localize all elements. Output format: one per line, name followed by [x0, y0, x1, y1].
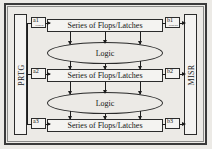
arrow-flop2-to-logic2-center — [105, 82, 106, 93]
flop-row-3[interactable]: Series of Flops/Latches — [47, 119, 163, 132]
link-flop3-to-b3 — [162, 124, 166, 125]
logic-block-2-label: Logic — [96, 99, 115, 108]
scan-out-tap-b2-id: b2 — [167, 68, 173, 75]
logic-block-1[interactable]: Logic — [47, 42, 163, 64]
flop-row-1[interactable]: Series of Flops/Latches — [47, 19, 163, 32]
scan-out-tap-b2[interactable]: b2 — [165, 68, 180, 79]
flop-row-3-label: Series of Flops/Latches — [67, 121, 142, 130]
arrow-logic2-to-flop3-center — [105, 114, 106, 119]
link-flop1-to-b1 — [162, 23, 166, 24]
bist-diagram-canvas: PRTG MISR Series of Flops/Latches Series… — [0, 0, 212, 149]
link-a1-to-flop1 — [46, 23, 50, 24]
misr-label: MISR — [186, 64, 195, 85]
arrow-logic2-to-flop3-left — [70, 111, 71, 119]
prtg-output-stub-top — [27, 23, 28, 24]
arrow-logic1-to-flop2-right — [140, 61, 141, 69]
flop-row-2[interactable]: Series of Flops/Latches — [47, 69, 163, 82]
arrow-logic1-to-flop2-left — [70, 61, 71, 69]
prtg-register[interactable]: PRTG — [14, 14, 27, 135]
scan-in-tap-a1[interactable]: a1 scan in — [31, 17, 46, 28]
link-flop2-to-b2 — [162, 74, 166, 75]
scan-in-tap-a2-id: a2 — [33, 68, 39, 75]
logic-block-2[interactable]: Logic — [47, 92, 163, 114]
scan-out-tap-b3[interactable]: b3 — [165, 118, 180, 129]
arrow-logic2-to-flop3-right — [140, 111, 141, 119]
arrow-flop1-to-logic1-right — [140, 32, 141, 44]
link-a3-to-flop3 — [46, 124, 50, 125]
flop-row-1-label: Series of Flops/Latches — [67, 21, 142, 30]
scan-out-tap-b1[interactable]: b1 scan out — [165, 17, 180, 28]
link-b1-to-misr — [180, 23, 185, 24]
scan-in-tap-a3[interactable]: a3 — [31, 118, 46, 129]
arrow-flop2-to-logic2-left — [70, 82, 71, 94]
logic-block-1-label: Logic — [96, 49, 115, 58]
arrow-flop1-to-logic1-left — [70, 32, 71, 44]
prtg-output-stub-middle — [27, 74, 28, 75]
scan-in-tap-a1-sublabel: scan in — [33, 23, 47, 27]
arrow-flop2-to-logic2-right — [140, 82, 141, 94]
scan-out-tap-b1-sublabel: scan out — [167, 23, 181, 27]
flop-row-2-label: Series of Flops/Latches — [67, 71, 142, 80]
arrow-logic1-to-flop2-center — [105, 64, 106, 69]
scan-in-tap-a2[interactable]: a2 — [31, 68, 46, 79]
scan-out-tap-b3-id: b3 — [167, 118, 173, 125]
prtg-bus-to-a3 — [27, 124, 32, 125]
arrow-flop1-to-logic1-center — [105, 32, 106, 43]
link-b3-to-misr — [180, 124, 185, 125]
scan-in-tap-a3-id: a3 — [33, 118, 39, 125]
link-a2-to-flop2 — [46, 74, 50, 75]
prtg-label: PRTG — [16, 64, 25, 86]
link-b2-to-misr — [180, 74, 185, 75]
